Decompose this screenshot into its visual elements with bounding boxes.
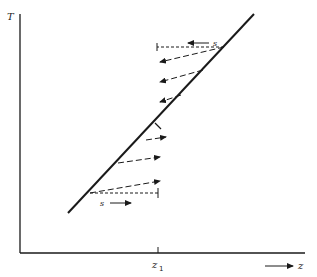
z1-line-tick (155, 123, 161, 129)
lower-arrow-1 (146, 137, 166, 140)
y-axis-label: T (7, 11, 15, 22)
upper-arrow-3 (160, 95, 181, 102)
lower-arrow-3 (90, 181, 160, 193)
x-axis-label: z (297, 260, 304, 271)
lower-arrow-2 (118, 157, 160, 163)
upper-flux-label: s (213, 39, 217, 48)
lower-flux-label: s (100, 199, 104, 208)
axes (20, 14, 305, 253)
temperature-profile-diagram: T z 1 z s s (0, 0, 317, 277)
lower-flux-arrows (90, 137, 166, 203)
upper-flux-arrows (157, 43, 224, 102)
z1-subscript: 1 (159, 265, 163, 273)
temperature-line (68, 14, 254, 213)
upper-arrow-1 (160, 47, 224, 62)
z1-label: z (151, 259, 158, 270)
